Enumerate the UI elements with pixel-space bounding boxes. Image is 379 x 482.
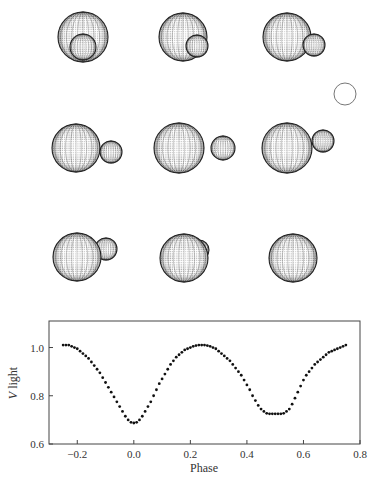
data-point	[212, 346, 215, 349]
y-axis-ticks: 0.60.81.0	[30, 342, 53, 450]
data-point	[229, 359, 232, 362]
data-point	[180, 351, 183, 354]
data-point	[107, 386, 110, 389]
data-point	[294, 397, 297, 400]
primary-star	[263, 13, 311, 61]
data-point	[322, 356, 325, 359]
star-panel-9	[269, 234, 317, 282]
star-panel-5	[154, 123, 235, 173]
data-point	[197, 344, 200, 347]
data-point	[288, 408, 291, 411]
data-point	[115, 400, 118, 403]
data-point	[296, 391, 299, 394]
data-point	[104, 381, 107, 384]
light-curve-chart: −0.20.00.20.40.60.8 0.60.81.0 Phase V li…	[0, 300, 379, 482]
star-panel-7	[53, 233, 117, 281]
secondary-star	[303, 34, 325, 56]
data-point	[217, 350, 220, 353]
data-point	[333, 349, 336, 352]
star-panel-4	[52, 124, 122, 172]
data-point	[144, 410, 147, 413]
reference-circle	[334, 83, 356, 105]
data-point	[132, 422, 135, 425]
data-point	[121, 410, 124, 413]
data-point	[265, 412, 268, 415]
data-point	[274, 412, 277, 415]
data-point	[127, 418, 130, 421]
primary-star	[53, 233, 101, 281]
data-point	[240, 374, 243, 377]
data-point	[262, 410, 265, 413]
data-point	[96, 368, 99, 371]
data-point	[138, 418, 141, 421]
data-point	[291, 403, 294, 406]
data-point	[305, 374, 308, 377]
data-point	[206, 344, 209, 347]
data-point	[279, 412, 282, 415]
data-point	[87, 357, 90, 360]
data-point	[166, 368, 169, 371]
data-point	[79, 350, 82, 353]
data-point	[62, 344, 65, 347]
data-point	[308, 370, 311, 373]
data-point	[243, 379, 246, 382]
data-point	[110, 391, 113, 394]
data-point	[231, 363, 234, 366]
data-point	[328, 351, 331, 354]
x-axis-ticks: −0.20.00.20.40.60.8	[67, 440, 367, 460]
plot-frame	[49, 321, 360, 444]
data-point	[257, 404, 260, 407]
data-point	[135, 421, 138, 424]
primary-star	[160, 234, 208, 282]
y-tick-label: 0.8	[30, 390, 44, 402]
data-point	[183, 349, 186, 352]
data-point	[195, 344, 198, 347]
data-point	[237, 370, 240, 373]
data-point	[73, 346, 76, 349]
data-point	[192, 345, 195, 348]
data-point	[271, 412, 274, 415]
data-point	[282, 412, 285, 415]
primary-star	[52, 124, 100, 172]
data-point	[223, 355, 226, 358]
data-point	[339, 346, 342, 349]
data-point	[209, 345, 212, 348]
x-axis-label: Phase	[190, 461, 218, 475]
data-point	[169, 363, 172, 366]
data-point	[113, 396, 116, 399]
star-panel-3	[263, 13, 325, 61]
x-tick-label: 0.6	[297, 448, 311, 460]
data-point	[90, 361, 93, 364]
data-point	[214, 347, 217, 350]
data-point	[175, 356, 178, 359]
data-point	[268, 412, 271, 415]
data-point	[319, 358, 322, 361]
data-point	[316, 361, 319, 364]
secondary-star	[312, 130, 334, 152]
data-point	[178, 353, 181, 356]
data-point	[260, 408, 263, 411]
data-point	[186, 347, 189, 350]
data-point	[248, 388, 251, 391]
binary-star-model-panels	[0, 0, 379, 300]
data-point	[220, 352, 223, 355]
star-panel-2	[159, 13, 208, 61]
primary-star	[269, 234, 317, 282]
secondary-star	[211, 136, 235, 160]
data-point	[246, 384, 249, 387]
data-point	[254, 399, 257, 402]
data-point	[234, 367, 237, 370]
data-point	[101, 376, 104, 379]
star-panel-8	[160, 234, 209, 282]
data-point	[200, 344, 203, 347]
star-panel-6	[262, 123, 334, 173]
star-panel-1	[58, 12, 108, 62]
data-point	[70, 345, 73, 348]
data-point	[118, 405, 121, 408]
x-tick-label: 0.0	[127, 448, 141, 460]
data-point	[203, 344, 206, 347]
light-curve-points	[62, 344, 348, 425]
data-point	[172, 359, 175, 362]
data-point	[152, 394, 155, 397]
data-point	[124, 415, 127, 418]
